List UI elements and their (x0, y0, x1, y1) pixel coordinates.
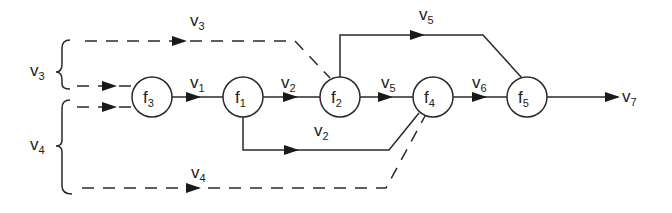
edge-v4-bottom-dashed (82, 116, 425, 188)
label-v4-brace: v4 (30, 135, 45, 156)
label-v2-lower: v2 (314, 121, 329, 142)
v3-brace (56, 40, 70, 89)
label-v5-main: v5 (381, 73, 396, 94)
arrowhead (605, 92, 620, 102)
label-v1: v1 (190, 73, 205, 94)
node-f5: f5 (507, 77, 547, 117)
label-v3-brace: v3 (30, 61, 45, 82)
arrowhead (186, 183, 201, 193)
arrowhead (102, 81, 117, 91)
label-v4-bottom: v4 (191, 163, 206, 184)
v4-brace (56, 100, 72, 194)
edge-v2-lower (243, 113, 419, 150)
arrowhead (410, 30, 425, 40)
label-v2-main: v2 (281, 73, 296, 94)
edge-v3-top-dashed (85, 41, 330, 78)
label-v7: v7 (622, 87, 637, 108)
label-v3-top: v3 (190, 11, 205, 32)
node-f2: f2 (320, 77, 360, 117)
edge-v5-top (340, 35, 522, 78)
signal-flow-diagram: f3 f1 f2 f4 f5 v3 v3 v4 v1 v2 v2 v5 v5 v… (0, 0, 672, 213)
label-v5-top: v5 (419, 5, 434, 26)
node-f4: f4 (413, 77, 453, 117)
label-v6: v6 (472, 73, 487, 94)
node-f3: f3 (132, 77, 172, 117)
arrowhead (284, 145, 299, 155)
node-f1: f1 (223, 77, 263, 117)
arrowhead (102, 102, 117, 112)
arrowhead (172, 36, 187, 46)
